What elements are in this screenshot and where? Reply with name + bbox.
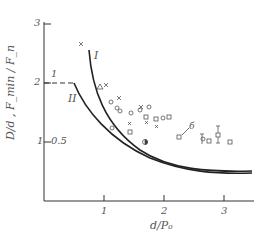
pointer-line-6 xyxy=(182,128,189,135)
y-tick-label-2: 2 xyxy=(34,77,40,87)
curve-I-label: I xyxy=(94,50,98,61)
dashed-line-label: 1 xyxy=(51,69,57,79)
scatter-points xyxy=(79,42,232,145)
circle-marker xyxy=(110,126,114,130)
x-tick-label-1: 1 xyxy=(101,206,107,216)
x-marker xyxy=(117,96,121,100)
circle-marker xyxy=(138,108,142,112)
curve-II xyxy=(74,83,252,173)
x-marker xyxy=(79,42,83,46)
x-marker xyxy=(104,83,108,87)
square-marker xyxy=(154,117,158,121)
circle-marker xyxy=(161,116,165,120)
triangle-marker xyxy=(97,84,103,89)
x-marker xyxy=(155,125,158,128)
curve-I xyxy=(89,50,252,171)
circle-marker xyxy=(129,111,133,115)
chart-canvas xyxy=(0,0,268,244)
y-tick-label-1: 1 xyxy=(37,136,43,146)
square-marker xyxy=(177,135,181,139)
y-axis-title: D/d , F_min / F_n xyxy=(4,45,17,140)
square-marker xyxy=(167,115,171,119)
series-6-label: б xyxy=(189,122,195,131)
half-filled-circle-marker xyxy=(143,140,148,145)
square-marker xyxy=(228,140,232,144)
circle-marker xyxy=(118,109,122,113)
x-tick-label-3: 3 xyxy=(221,206,227,216)
square-marker xyxy=(144,115,148,119)
secondary-label-0-5: 0.5 xyxy=(51,136,67,146)
y-tick-label-3: 3 xyxy=(34,18,40,28)
square-marker xyxy=(128,130,132,134)
axes xyxy=(44,22,254,201)
x-tick-label-2: 2 xyxy=(161,206,167,216)
circle-marker xyxy=(109,100,113,104)
curve-II-label: II xyxy=(68,93,77,104)
square-marker xyxy=(207,139,211,143)
x-axis-title: d/P₀ xyxy=(150,220,173,231)
x-marker xyxy=(145,121,148,124)
errorbar-marker xyxy=(216,126,220,143)
circle-marker xyxy=(147,105,151,109)
x-marker xyxy=(128,122,131,125)
